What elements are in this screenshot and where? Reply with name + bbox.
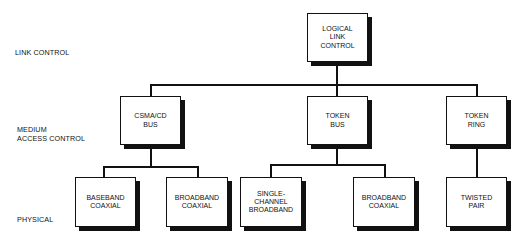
connector-tokenbus-down bbox=[336, 145, 338, 165]
node-logical-link-control: LOGICAL LINK CONTROL bbox=[307, 13, 368, 62]
node-csma-cd-bus: CSMA/CD BUS bbox=[120, 96, 181, 145]
node-twisted-pair: TWISTED PAIR bbox=[446, 177, 507, 227]
connector-csma-down bbox=[150, 145, 152, 167]
connector-tokenring-up bbox=[476, 84, 478, 96]
node-baseband-coaxial: BASEBAND COAXIAL bbox=[75, 177, 136, 227]
layer-label-medium-access-control: MEDIUM ACCESS CONTROL bbox=[17, 126, 85, 143]
connector-tokenbus-phys-bus bbox=[270, 164, 385, 166]
node-broadband-coaxial-token: BROADBAND COAXIAL bbox=[353, 177, 415, 227]
connector-tokenring-down bbox=[476, 145, 478, 177]
layer-label-link-control: LINK CONTROL bbox=[15, 49, 69, 58]
connector-broadband2-up bbox=[384, 164, 386, 177]
connector-mac-bus bbox=[150, 84, 477, 86]
connector-broadband1-up bbox=[197, 166, 199, 177]
node-broadband-coaxial-csma: BROADBAND COAXIAL bbox=[166, 177, 228, 227]
connector-llc-down bbox=[336, 62, 338, 85]
connector-csma-up bbox=[150, 84, 152, 96]
connector-tokenbus-up bbox=[336, 84, 338, 96]
connector-csma-phys-bus bbox=[103, 166, 198, 168]
connector-baseband-up bbox=[103, 166, 105, 177]
layer-label-physical: PHYSICAL bbox=[17, 216, 53, 225]
node-single-channel-broadband: SINGLE- CHANNEL BROADBAND bbox=[240, 177, 302, 227]
connector-singlechannel-up bbox=[270, 164, 272, 177]
node-token-bus: TOKEN BUS bbox=[307, 96, 368, 145]
node-token-ring: TOKEN RING bbox=[446, 96, 507, 145]
